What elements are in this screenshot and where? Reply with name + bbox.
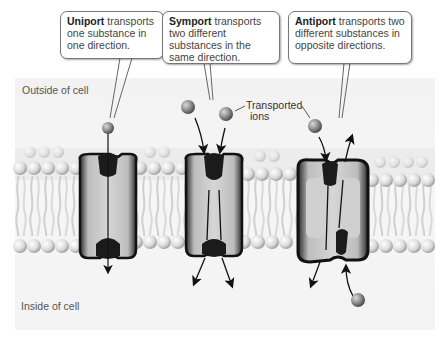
antiport-term: Antiport xyxy=(295,15,336,27)
symport-protein xyxy=(186,118,243,286)
symport-ion-1 xyxy=(181,100,195,114)
transported-ions-label: Transported ions xyxy=(246,100,302,122)
symport-ion-2 xyxy=(219,107,233,121)
uniport-ion xyxy=(102,122,114,134)
antiport-callout: Antiport transports two different substa… xyxy=(288,11,412,64)
uniport-callout: Uniport transports one substance in one … xyxy=(60,11,164,59)
symport-term: Symport xyxy=(169,15,212,27)
antiport-ion-outside xyxy=(308,119,322,133)
antiport-ion-inside xyxy=(351,293,365,307)
outside-of-cell-label: Outside of cell xyxy=(22,84,89,96)
uniport-protein xyxy=(80,132,137,272)
uniport-term: Uniport xyxy=(67,15,104,27)
transported-ions-line2: ions xyxy=(246,111,302,122)
inside-of-cell-label: Inside of cell xyxy=(21,300,79,312)
symport-callout: Symport transports two different substan… xyxy=(162,11,280,64)
